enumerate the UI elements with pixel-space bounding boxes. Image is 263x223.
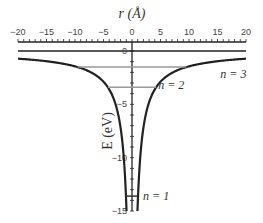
label-n1: n = 1 bbox=[143, 189, 169, 203]
x-tick-label: 15 bbox=[212, 27, 222, 37]
x-tick-label: 5 bbox=[158, 27, 163, 37]
y-tick-label: −5 bbox=[117, 99, 127, 109]
label-n3: n = 3 bbox=[220, 67, 246, 81]
y-tick-label: −15 bbox=[112, 206, 127, 216]
x-tick-label: −5 bbox=[98, 27, 108, 37]
y-tick-label: 0 bbox=[122, 46, 127, 56]
x-tick-label: 10 bbox=[184, 27, 194, 37]
x-tick-label: −20 bbox=[10, 27, 25, 37]
chart: −20−15−10−505101520r (Å)0−5−10−15E (eV)n… bbox=[0, 0, 263, 223]
x-tick-label: −10 bbox=[67, 27, 82, 37]
x-axis-label: r (Å) bbox=[119, 6, 146, 22]
y-axis-label: E (eV) bbox=[100, 112, 116, 150]
x-tick-label: −15 bbox=[39, 27, 54, 37]
label-n2: n = 2 bbox=[158, 78, 184, 92]
x-tick-label: 20 bbox=[241, 27, 251, 37]
x-tick-label: 0 bbox=[129, 27, 134, 37]
